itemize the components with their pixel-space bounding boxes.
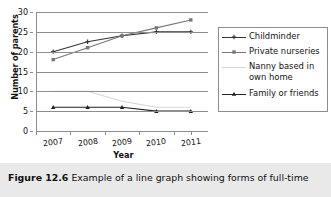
y-tick-label: 25: [0, 27, 28, 36]
x-tick-mark: [36, 131, 37, 135]
y-tick-mark: [30, 12, 33, 13]
plus-marker: [85, 40, 89, 44]
x-tick-mark: [174, 131, 175, 135]
y-axis-ticks: 051015202530: [0, 12, 33, 131]
gridline: [36, 12, 208, 13]
gridline: [36, 72, 208, 73]
gridline: [36, 32, 208, 33]
y-tick-mark: [30, 32, 33, 33]
plus-cross-icon: [222, 32, 246, 44]
y-tick-label: 0: [0, 127, 28, 136]
x-tick-mark: [70, 131, 71, 135]
x-tick-mark: [191, 131, 192, 135]
y-tick-mark: [30, 111, 33, 112]
none-icon: [222, 62, 246, 74]
square-marker: [232, 50, 235, 53]
legend-item-label: Nanny based in own home: [249, 61, 314, 82]
gridline: [36, 111, 208, 112]
y-tick-mark: [30, 91, 33, 92]
series-line: [53, 20, 191, 60]
legend-item-label: Childminder: [249, 31, 300, 42]
x-tick-label: 2009: [105, 136, 140, 149]
gridline: [36, 91, 208, 92]
square-marker: [155, 26, 158, 29]
square-marker: [189, 18, 192, 21]
y-tick-mark: [30, 52, 33, 53]
triangle-marker: [232, 92, 236, 96]
square-icon: [222, 47, 246, 59]
y-tick-mark: [30, 131, 33, 132]
figure-page: Number of parents 051015202530 Year Chil…: [0, 0, 331, 197]
chart-figure: Number of parents 051015202530 Year Chil…: [0, 0, 331, 163]
x-tick-label: 2011: [173, 136, 208, 149]
plus-marker: [232, 35, 236, 39]
legend-item-label: Private nurseries: [249, 46, 320, 57]
legend-item-label: Family or friends: [249, 88, 319, 99]
x-axis-title: Year: [36, 150, 211, 160]
gridline: [36, 52, 208, 53]
square-marker: [120, 34, 123, 37]
figure-number: Figure 12.6: [8, 172, 68, 183]
y-tick-label: 5: [0, 107, 28, 116]
y-tick-label: 10: [0, 87, 28, 96]
y-tick-mark: [30, 72, 33, 73]
y-tick-label: 30: [0, 8, 28, 17]
x-tick-mark: [139, 131, 140, 135]
triangle-icon: [222, 89, 246, 101]
y-tick-label: 20: [0, 47, 28, 56]
x-tick-label: 2010: [139, 136, 174, 149]
legend-item-4[interactable]: Family or friends: [222, 88, 325, 102]
y-tick-label: 15: [0, 67, 28, 76]
x-tick-mark: [105, 131, 106, 135]
chart-legend: ChildminderPrivate nurseriesNanny based …: [218, 27, 328, 112]
figure-caption-text: Example of a line graph showing forms of…: [71, 172, 308, 183]
plot-area: [36, 12, 208, 131]
legend-item-2[interactable]: Private nurseries: [222, 46, 325, 60]
series-line: [53, 91, 191, 107]
legend-item-1[interactable]: Childminder: [222, 31, 325, 45]
x-tick-label: 2008: [70, 136, 105, 149]
legend-item-3[interactable]: Nanny based in own home: [222, 61, 325, 87]
square-marker: [86, 46, 89, 49]
square-marker: [52, 58, 55, 61]
figure-caption: Figure 12.6 Example of a line graph show…: [8, 172, 326, 184]
x-tick-label: 2007: [36, 136, 71, 149]
